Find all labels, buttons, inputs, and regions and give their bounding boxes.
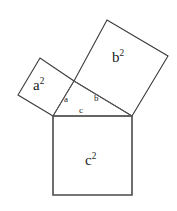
pythagorean-figure: [0, 0, 177, 211]
square-a-base: a: [33, 77, 40, 93]
side-b-label: b: [94, 94, 99, 103]
square-c-base: c: [85, 152, 92, 168]
side-c-label: c: [79, 106, 83, 115]
square-a-label: a2: [33, 78, 44, 93]
square-b-base: b: [112, 49, 120, 65]
square-on-leg-a-shape: [18, 58, 74, 116]
square-b-label: b2: [112, 50, 124, 65]
square-c-exponent: 2: [92, 151, 97, 161]
square-b-exponent: 2: [120, 48, 125, 58]
square-c-label: c2: [85, 153, 96, 168]
diagram-canvas: a2 b2 c2 a b c: [0, 0, 177, 211]
square-on-leg-b-shape: [74, 20, 168, 116]
side-a-label: a: [64, 95, 68, 104]
square-a-exponent: 2: [40, 76, 45, 86]
